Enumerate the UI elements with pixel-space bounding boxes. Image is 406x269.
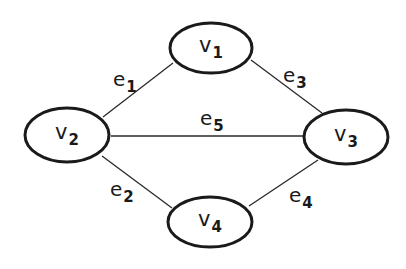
edge-label-e3-subscript: 3 <box>296 74 306 92</box>
node-v2: v2 <box>25 108 109 162</box>
node-label-v1-subscript: 1 <box>212 44 222 62</box>
edge-label-e3-base: e <box>283 63 295 87</box>
edge-label-e3: e3 <box>283 63 307 92</box>
edge-label-e4: e4 <box>289 183 313 212</box>
node-v3: v3 <box>304 110 388 164</box>
edge-label-e5: e5 <box>200 106 224 135</box>
node-label-v3-base: v <box>334 122 346 146</box>
edge-label-e1-base: e <box>113 67 125 91</box>
node-v1: v1 <box>170 23 252 73</box>
node-label-v3-subscript: 3 <box>347 133 357 151</box>
node-label-v4-subscript: 4 <box>211 218 221 236</box>
node-label-v4-base: v <box>198 207 210 231</box>
edge-label-e4-base: e <box>289 183 301 207</box>
edge-labels-group: e1e2e3e4e5 <box>110 63 313 212</box>
edge-label-e5-subscript: 5 <box>213 117 223 135</box>
edge-label-e2-subscript: 2 <box>123 188 133 206</box>
graph-diagram: v1v2v3v4 e1e2e3e4e5 <box>0 0 406 269</box>
edge-label-e2: e2 <box>110 177 134 206</box>
edge-label-e4-subscript: 4 <box>302 194 312 212</box>
node-label-v1-base: v <box>199 33 211 57</box>
edge-label-e1-subscript: 1 <box>126 78 136 96</box>
node-v4: v4 <box>168 197 252 247</box>
edge-label-e1: e1 <box>113 67 137 96</box>
nodes-group: v1v2v3v4 <box>25 23 388 247</box>
node-label-v2-subscript: 2 <box>68 131 78 149</box>
node-label-v2-base: v <box>55 120 67 144</box>
edge-label-e2-base: e <box>110 177 122 201</box>
edge-label-e5-base: e <box>200 106 212 130</box>
